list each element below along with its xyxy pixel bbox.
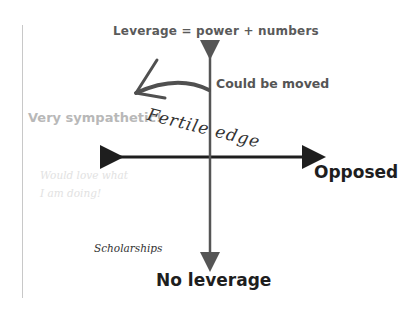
right-axis-label: Opposed: [314, 162, 398, 182]
could-be-moved-label: Could be moved: [216, 75, 278, 92]
scholarships-note: Scholarships: [94, 242, 162, 254]
would-love-line-1: Would love what: [40, 166, 128, 184]
bottom-axis-label: No leverage: [156, 270, 271, 290]
top-axis-label: Leverage = power + numbers: [113, 24, 319, 38]
left-axis-label: Very sympathetic!: [28, 108, 132, 127]
curved-arrow-icon: [136, 83, 209, 93]
would-love-line-2: I am doing!: [40, 184, 128, 202]
would-love-note: Would love what I am doing!: [40, 166, 128, 202]
quadrant-axes: [0, 0, 417, 309]
